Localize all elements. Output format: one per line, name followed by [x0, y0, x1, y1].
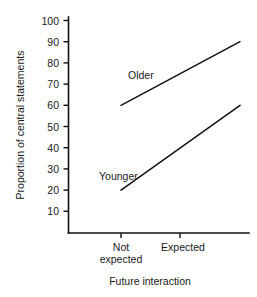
y-tick-label-80: 80 [47, 57, 59, 69]
x-tick-label-not-expected-line2: expected [100, 253, 143, 265]
y-tick-label-90: 90 [47, 36, 59, 48]
series-label-older: Older [128, 69, 154, 81]
x-axis-tick-labels: Not expected Expected [100, 241, 205, 265]
y-tick-label-40: 40 [47, 142, 59, 154]
y-tick-label-30: 30 [47, 163, 59, 175]
x-tick-label-expected: Expected [161, 241, 205, 253]
y-tick-label-60: 60 [47, 99, 59, 111]
y-tick-label-70: 70 [47, 78, 59, 90]
x-tick-label-not-expected-line1: Not [113, 241, 129, 253]
y-tick-label-20: 20 [47, 184, 59, 196]
x-axis-title: Future interaction [109, 275, 191, 287]
y-tick-label-10: 10 [47, 205, 59, 217]
series-line-younger [121, 105, 240, 190]
series-label-younger: Younger [99, 170, 138, 182]
y-tick-label-100: 100 [41, 15, 59, 27]
chart-figure: 100 90 80 70 60 50 40 30 20 10 Not expec… [0, 0, 257, 297]
y-axis-tick-labels: 100 90 80 70 60 50 40 30 20 10 [41, 15, 59, 218]
y-tick-label-50: 50 [47, 121, 59, 133]
line-chart-svg: 100 90 80 70 60 50 40 30 20 10 Not expec… [0, 0, 257, 297]
y-axis-title: Proportion of central statements [14, 51, 26, 200]
